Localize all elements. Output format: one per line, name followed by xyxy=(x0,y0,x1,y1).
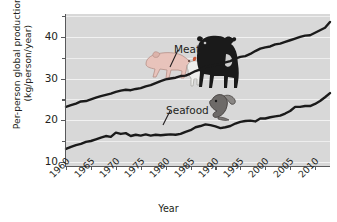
y-tick-minor xyxy=(62,58,65,59)
x-axis-title: Year xyxy=(0,203,337,214)
y-tick-label: 40 xyxy=(18,30,58,42)
y-tick xyxy=(61,37,65,38)
y-axis-line xyxy=(65,14,66,167)
annotation-leader-lines xyxy=(66,14,330,166)
y-tick-minor xyxy=(62,16,65,17)
y-tick xyxy=(61,79,65,80)
y-tick xyxy=(61,120,65,121)
y-tick-minor xyxy=(62,141,65,142)
y-tick-label: 30 xyxy=(18,72,58,84)
meat-annotation: Meat xyxy=(174,43,200,55)
seafood-annotation: Seafood xyxy=(166,104,209,116)
chart-figure: Per-person global production (kg/person/… xyxy=(0,0,337,222)
y-tick-minor xyxy=(62,99,65,100)
y-tick-label: 10 xyxy=(18,155,58,167)
y-tick-label: 20 xyxy=(18,113,58,125)
